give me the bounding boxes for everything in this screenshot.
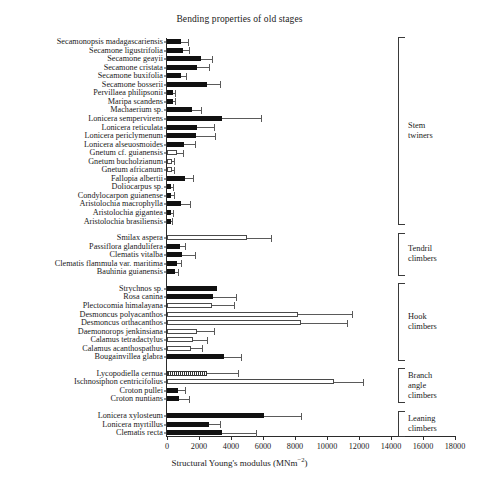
bar-row: Secamone cristata	[167, 64, 455, 72]
error-bar-cap	[220, 421, 221, 428]
group-label: Tendril climbers	[408, 244, 437, 264]
error-bar-cap	[185, 387, 186, 394]
chart-title: Bending properties of old stages	[0, 14, 479, 24]
bar-row: Maripa scandens	[167, 98, 455, 106]
bracket-top-arm	[398, 233, 405, 234]
y-axis-tick-label: Aristolochia brasiliensis	[84, 217, 163, 225]
x-axis-tick-label: 0	[165, 442, 169, 451]
error-bar-cap	[214, 328, 215, 335]
x-axis-tick	[423, 436, 424, 440]
error-bar-line	[222, 118, 260, 119]
bar-row: Lonicera alseuosmoides	[167, 141, 455, 149]
x-axis-tick-label: 14000	[381, 442, 401, 451]
bar	[167, 312, 298, 317]
error-bar-cap	[241, 354, 242, 361]
bar-row: Calamus tetradactylus	[167, 336, 455, 344]
bar-row: Plectocomia himalayana	[167, 302, 455, 310]
error-bar-line	[207, 84, 220, 85]
bar-row: Aristolochia macrophylla	[167, 200, 455, 208]
x-axis-title-text: Structural Young's modulus (MNm−2)	[171, 458, 307, 468]
x-axis-tick-label: 12000	[349, 442, 369, 451]
bracket-top-arm	[398, 283, 405, 284]
group-label: Leaning climbers	[408, 414, 437, 434]
error-bar-cap	[173, 184, 174, 191]
error-bar-line	[181, 204, 191, 205]
error-bar-cap	[271, 235, 272, 242]
bar	[167, 176, 185, 181]
error-bar-cap	[183, 150, 184, 157]
x-axis-tick-label: 4000	[223, 442, 239, 451]
bar-row: Secamone bosserii	[167, 81, 455, 89]
bar	[167, 142, 184, 147]
bar-row: Doliocarpus sp.	[167, 183, 455, 191]
error-bar-cap	[178, 269, 179, 276]
bar	[167, 56, 201, 61]
error-bar-cap	[261, 115, 262, 122]
bar	[167, 82, 207, 87]
bar-row: Strychnos sp.	[167, 285, 455, 293]
error-bar-line	[209, 424, 220, 425]
error-bar-line	[298, 314, 352, 315]
bar-row: Aristolochia gigantea	[167, 209, 455, 217]
error-bar-cap	[209, 64, 210, 71]
bar-row: Condylocarpon guianense	[167, 192, 455, 200]
bar	[167, 201, 181, 206]
bar-row: Machaerium sp.	[167, 106, 455, 114]
bar-row: Bougainvillea glabra	[167, 353, 455, 361]
bracket-bottom-arm	[398, 436, 405, 437]
bracket-spine	[398, 233, 399, 276]
bar	[167, 107, 192, 112]
bar	[167, 65, 197, 70]
error-bar-cap	[212, 56, 213, 63]
x-axis-tick-label: 18000	[445, 442, 465, 451]
bar	[167, 422, 209, 427]
x-axis-title: Structural Young's modulus (MNm−2)	[0, 456, 479, 468]
bar-row: Aristolochia brasiliensis	[167, 218, 455, 226]
bracket-top-arm	[398, 411, 405, 412]
bar-row: Rosa canina	[167, 293, 455, 301]
error-bar-line	[185, 178, 193, 179]
error-bar-cap	[173, 210, 174, 217]
error-bar-line	[193, 340, 207, 341]
error-bar-cap	[185, 243, 186, 250]
bar	[167, 430, 222, 435]
bar	[167, 413, 264, 418]
bar	[167, 346, 191, 351]
bar	[167, 244, 180, 249]
error-bar-cap	[174, 167, 175, 174]
x-axis-tick	[263, 436, 264, 440]
bar-row: Secamonopsis madagascariensis	[167, 38, 455, 46]
bar	[167, 329, 197, 334]
error-bar-line	[179, 399, 189, 400]
bracket-spine	[398, 411, 399, 437]
error-bar-cap	[207, 337, 208, 344]
error-bar-cap	[234, 302, 235, 309]
x-axis-tick	[167, 436, 168, 440]
error-bar-cap	[189, 47, 190, 54]
y-axis-tick-label: Bauhinia guianensis	[97, 268, 163, 276]
bracket-bottom-arm	[398, 275, 405, 276]
error-bar-cap	[352, 311, 353, 318]
bar	[167, 286, 217, 291]
error-bar-line	[192, 110, 202, 111]
bar-row: Secamone buxifolia	[167, 72, 455, 80]
group-label: Stem twiners	[408, 121, 433, 141]
x-axis-tick	[455, 436, 456, 440]
bar	[167, 261, 177, 266]
error-bar-line	[207, 373, 238, 374]
x-axis-tick	[391, 436, 392, 440]
error-bar-cap	[347, 320, 348, 327]
bar-row: Gnetum africanum	[167, 166, 455, 174]
bracket-bottom-arm	[398, 360, 405, 361]
error-bar-line	[301, 323, 347, 324]
bar-row: Secamone geayii	[167, 55, 455, 63]
x-axis-tick	[231, 436, 232, 440]
x-axis-tick	[359, 436, 360, 440]
error-bar-cap	[220, 81, 221, 88]
bar	[167, 116, 222, 121]
bar	[167, 294, 213, 299]
error-bar-cap	[190, 201, 191, 208]
bar-row: Calamus acanthospathus	[167, 345, 455, 353]
bracket-spine	[398, 283, 399, 360]
error-bar-line	[213, 297, 235, 298]
